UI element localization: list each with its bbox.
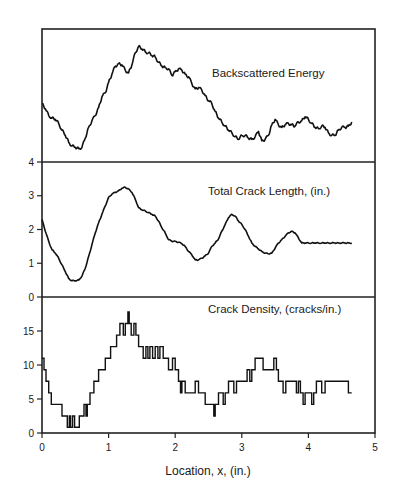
x-tick-label: 5: [372, 442, 378, 453]
panel-title-crack-length: Total Crack Length, (in.): [208, 185, 330, 197]
x-tick-label: 2: [172, 442, 178, 453]
panel-title-crack-density: Crack Density, (cracks/in.): [208, 303, 342, 315]
y-tick-label: 4: [28, 157, 34, 168]
y-tick-label: 0: [28, 292, 34, 303]
series-backscattered-energy: [42, 46, 352, 150]
series-total-crack-length: [42, 187, 352, 281]
x-tick-label: 3: [239, 442, 245, 453]
y-tick-label: 5: [28, 394, 34, 405]
panel-title-backscattered: Backscattered Energy: [212, 67, 325, 79]
y-axis-crack-density: 051015: [23, 326, 42, 439]
x-tick-label: 1: [106, 442, 112, 453]
x-tick-label: 4: [306, 442, 312, 453]
y-tick-label: 0: [28, 428, 34, 439]
series-crack-density: [42, 312, 352, 427]
stacked-line-chart: Backscattered Energy Total Crack Length,…: [0, 0, 395, 501]
chart-frame: [42, 29, 375, 433]
y-axis-crack-length: 01234: [28, 157, 42, 303]
y-tick-label: 15: [23, 326, 35, 337]
y-tick-label: 1: [28, 258, 34, 269]
x-axis: 012345: [39, 433, 378, 453]
x-tick-label: 0: [39, 442, 45, 453]
y-tick-label: 3: [28, 190, 34, 201]
y-tick-label: 2: [28, 224, 34, 235]
x-axis-label: Location, x, (in.): [165, 464, 250, 478]
y-tick-label: 10: [23, 360, 35, 371]
